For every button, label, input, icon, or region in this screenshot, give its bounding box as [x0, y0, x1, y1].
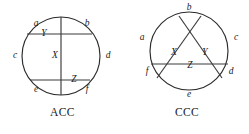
acc-caption: ACC	[0, 106, 125, 118]
acc-boundary-label-d: d	[106, 50, 111, 60]
ccc-caption: CCC	[125, 106, 249, 118]
diagram-acc: a b c d e f X Y Z ACC	[0, 0, 125, 134]
acc-boundary-label-a: a	[34, 18, 39, 28]
ccc-boundary-label-d: d	[229, 66, 234, 76]
ccc-boundary-label-b: b	[187, 2, 192, 12]
ccc-node-label-y: Y	[202, 47, 209, 57]
acc-node-label-x: X	[51, 50, 59, 60]
acc-node-label-y: Y	[41, 28, 48, 38]
ccc-boundary-label-f: f	[146, 66, 150, 76]
acc-boundary-label-b: b	[85, 18, 90, 28]
acc-boundary-label-f: f	[86, 84, 90, 94]
diagram-ccc: b a c f d e X Y Z CCC	[125, 0, 249, 134]
ccc-chord-b-to-f	[157, 16, 201, 78]
ccc-boundary-label-e: e	[187, 89, 191, 99]
ccc-canvas: b a c f d e X Y Z	[125, 0, 249, 106]
acc-boundary-label-c: c	[13, 50, 18, 60]
acc-node-label-z: Z	[71, 74, 77, 84]
ccc-node-label-z: Z	[187, 60, 193, 70]
ccc-node-label-x: X	[170, 47, 178, 57]
acc-canvas: a b c d e f X Y Z	[0, 0, 125, 106]
ccc-chord-b-to-d	[179, 16, 222, 78]
acc-boundary-label-e: e	[34, 84, 38, 94]
ccc-circle	[150, 12, 228, 90]
figure-root: a b c d e f X Y Z ACC b a c f d e X Y Z	[0, 0, 249, 134]
ccc-boundary-label-c: c	[234, 32, 239, 42]
ccc-boundary-label-a: a	[140, 32, 145, 42]
